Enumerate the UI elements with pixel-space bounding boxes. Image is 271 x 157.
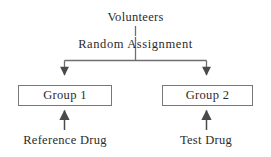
node-label-random-assignment: Random Assignment — [0, 38, 271, 51]
node-label-group-1: Group 1 — [43, 88, 86, 103]
node-box-group-2: Group 2 — [162, 85, 253, 106]
node-label-group-2: Group 2 — [186, 88, 229, 103]
node-box-group-1: Group 1 — [18, 85, 112, 106]
node-label-volunteers: Volunteers — [0, 11, 271, 24]
node-label-reference-drug: Reference Drug — [0, 134, 130, 147]
flow-diagram: Volunteers Random Assignment Group 1 Gro… — [0, 0, 271, 157]
node-label-test-drug: Test Drug — [156, 134, 256, 147]
